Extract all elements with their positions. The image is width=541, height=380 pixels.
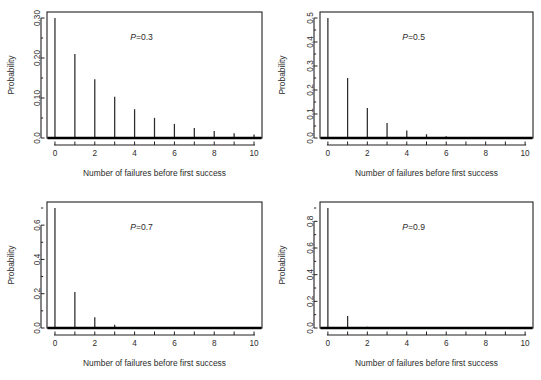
y-tick-label: 0.4	[306, 36, 315, 48]
x-tick-label: 0	[53, 339, 58, 348]
y-tick-label: 0.1	[306, 108, 315, 120]
y-tick-label: 0.8	[306, 215, 315, 227]
x-tick-label: 10	[249, 149, 259, 158]
x-tick-label: 10	[249, 339, 259, 348]
p-value-annotation: P=0.5	[402, 32, 425, 42]
y-tick-label: 0.2	[306, 295, 315, 307]
x-tick-label: 4	[404, 149, 409, 158]
y-tick-label: 0.4	[306, 269, 315, 281]
y-tick-label: 0.4	[33, 253, 42, 265]
x-tick-label: 6	[444, 149, 449, 158]
x-tick-label: 2	[92, 339, 97, 348]
x-tick-label: 10	[521, 339, 531, 348]
x-tick-label: 6	[444, 339, 449, 348]
spike-series	[328, 208, 367, 328]
plot-frame	[320, 12, 533, 138]
chart-panel-p-0-7: 0.00.20.40.6Probability0246810Number of …	[0, 190, 271, 380]
x-tick-label: 2	[365, 149, 370, 158]
chart-panel-p-0-9: 0.00.20.40.60.8Probability0246810Number …	[271, 190, 541, 380]
y-tick-label: 0.0	[306, 322, 315, 334]
y-tick-label: 0.3	[306, 60, 315, 72]
plot-frame	[320, 202, 533, 328]
x-axis-title: Number of failures before first success	[83, 358, 226, 368]
x-tick-label: 4	[132, 339, 137, 348]
x-axis-title: Number of failures before first success	[83, 168, 226, 178]
p-value-text: =0.3	[136, 32, 153, 42]
p-value-text: =0.5	[408, 32, 425, 42]
y-tick-label: 0.0	[33, 322, 42, 334]
y-axis-title: Probability	[6, 55, 16, 95]
y-tick-label: 0.5	[306, 12, 315, 24]
y-axis-title: Probability	[277, 55, 287, 95]
x-tick-label: 6	[172, 339, 177, 348]
plot-area-p-0-5: 0.00.10.20.30.40.5Probability0246810Numb…	[271, 0, 541, 190]
chart-panel-p-0-5: 0.00.10.20.30.40.5Probability0246810Numb…	[271, 0, 541, 190]
x-tick-label: 2	[92, 149, 97, 158]
y-tick-label: 0.20	[33, 50, 42, 66]
p-value-annotation: P=0.3	[130, 32, 153, 42]
x-tick-label: 6	[172, 149, 177, 158]
x-axis-title: Number of failures before first success	[355, 168, 498, 178]
y-tick-label: 0.2	[33, 288, 42, 300]
plot-area-p-0-9: 0.00.20.40.60.8Probability0246810Number …	[271, 190, 541, 380]
x-tick-label: 2	[365, 339, 370, 348]
y-tick-label: 0.6	[33, 219, 42, 231]
x-tick-label: 4	[132, 149, 137, 158]
x-tick-label: 4	[404, 339, 409, 348]
p-value-annotation: P=0.7	[130, 222, 153, 232]
plot-frame	[47, 202, 262, 328]
x-tick-label: 8	[212, 149, 217, 158]
p-value-text: =0.9	[408, 222, 425, 232]
y-axis-title: Probability	[277, 245, 287, 285]
plot-area-p-0-3: 0.00.100.200.30Probability0246810Number …	[0, 0, 271, 190]
chart-panel-p-0-3: 0.00.100.200.30Probability0246810Number …	[0, 0, 271, 190]
spike-series	[55, 18, 254, 138]
y-axis-title: Probability	[6, 245, 16, 285]
x-tick-label: 0	[326, 339, 331, 348]
y-tick-label: 0.30	[33, 10, 42, 26]
x-tick-label: 8	[483, 149, 488, 158]
x-tick-label: 8	[212, 339, 217, 348]
y-tick-label: 0.10	[33, 90, 42, 106]
x-tick-label: 0	[326, 149, 331, 158]
p-value-annotation: P=0.9	[402, 222, 425, 232]
y-tick-label: 0.2	[306, 84, 315, 96]
x-axis-title: Number of failures before first success	[355, 358, 498, 368]
y-tick-label: 0.0	[33, 132, 42, 144]
spike-series	[55, 208, 135, 328]
x-tick-label: 10	[521, 149, 531, 158]
x-tick-label: 8	[483, 339, 488, 348]
y-tick-label: 0.6	[306, 242, 315, 254]
plot-area-p-0-7: 0.00.20.40.6Probability0246810Number of …	[0, 190, 271, 380]
x-tick-label: 0	[53, 149, 58, 158]
geometric-distribution-figure: 0.00.100.200.30Probability0246810Number …	[0, 0, 541, 380]
y-tick-label: 0.0	[306, 132, 315, 144]
p-value-text: =0.7	[136, 222, 153, 232]
